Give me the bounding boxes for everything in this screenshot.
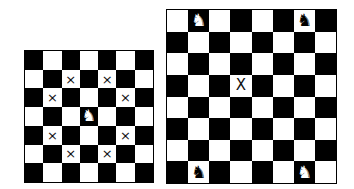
knight-icon: ♞	[191, 12, 206, 29]
board-square	[209, 75, 230, 97]
board-square	[62, 107, 80, 126]
board-square: ×	[62, 145, 80, 164]
x-mark-icon: ×	[102, 147, 113, 160]
board-square	[167, 161, 188, 183]
board-square	[135, 88, 153, 107]
knight-icon: ♞	[297, 12, 312, 29]
board-square: ♞	[294, 10, 315, 32]
board-square	[25, 51, 43, 70]
board-square	[252, 140, 273, 162]
board-square	[209, 140, 230, 162]
board-square	[25, 163, 43, 182]
board-square	[315, 75, 336, 97]
board-square	[230, 97, 251, 119]
board-square	[116, 163, 134, 182]
board-square	[315, 140, 336, 162]
board-square	[43, 145, 61, 164]
board-square: ×	[43, 126, 61, 145]
board-square	[135, 107, 153, 126]
board-square	[209, 53, 230, 75]
board-square: ×	[98, 145, 116, 164]
board-square: ×	[116, 88, 134, 107]
board-square: ×	[116, 126, 134, 145]
x-mark-icon: ×	[47, 129, 58, 142]
board-square	[230, 10, 251, 32]
board-square	[252, 32, 273, 54]
board-square	[98, 107, 116, 126]
board-square	[62, 126, 80, 145]
board-square: ♞	[294, 161, 315, 183]
board-square: ×	[98, 70, 116, 89]
board-square	[188, 140, 209, 162]
board-square	[167, 75, 188, 97]
board-square	[43, 163, 61, 182]
board-square	[62, 163, 80, 182]
board-square	[294, 118, 315, 140]
board-square: ×	[43, 88, 61, 107]
board-square	[294, 75, 315, 97]
board-square	[188, 32, 209, 54]
board-square	[209, 10, 230, 32]
board-square	[98, 126, 116, 145]
board-square	[98, 163, 116, 182]
board-square: ×	[62, 70, 80, 89]
board-square	[252, 75, 273, 97]
board-square	[315, 10, 336, 32]
board-square	[188, 118, 209, 140]
board-square	[167, 10, 188, 32]
board-square	[80, 51, 98, 70]
knight-icon: ♞	[191, 164, 206, 181]
board-square	[116, 51, 134, 70]
board-square	[167, 118, 188, 140]
board-square	[43, 70, 61, 89]
board-square	[188, 53, 209, 75]
board-square	[167, 97, 188, 119]
board-square	[80, 145, 98, 164]
board-square: ♞	[80, 107, 98, 126]
board-square	[135, 163, 153, 182]
board-square	[135, 70, 153, 89]
board-square	[230, 32, 251, 54]
board-square: ♞	[188, 10, 209, 32]
x-mark-icon: X	[236, 78, 246, 93]
board-square	[230, 140, 251, 162]
board-square	[25, 107, 43, 126]
left-chessboard-7x7: ××××♞××××	[24, 50, 154, 183]
board-square	[135, 145, 153, 164]
board-square	[43, 107, 61, 126]
board-square	[80, 88, 98, 107]
board-square	[315, 32, 336, 54]
board-square	[167, 32, 188, 54]
board-square	[209, 161, 230, 183]
board-square	[273, 53, 294, 75]
board-square	[135, 51, 153, 70]
board-square	[294, 53, 315, 75]
knight-icon: ♞	[297, 164, 312, 181]
board-square	[62, 88, 80, 107]
board-square	[98, 88, 116, 107]
board-square	[62, 51, 80, 70]
board-square	[116, 145, 134, 164]
board-square	[209, 32, 230, 54]
board-square	[273, 32, 294, 54]
board-square	[273, 118, 294, 140]
board-square	[25, 88, 43, 107]
board-square	[25, 70, 43, 89]
board-square	[273, 10, 294, 32]
knight-icon: ♞	[82, 108, 96, 124]
board-square	[25, 126, 43, 145]
board-square	[43, 51, 61, 70]
board-square	[188, 97, 209, 119]
board-square	[315, 161, 336, 183]
board-square	[273, 140, 294, 162]
board-square	[252, 161, 273, 183]
board-square: ♞	[188, 161, 209, 183]
x-mark-icon: ×	[120, 91, 131, 104]
x-mark-icon: ×	[65, 147, 76, 160]
board-square	[135, 126, 153, 145]
board-square	[315, 53, 336, 75]
right-chessboard-8x8: ♞♞X♞♞	[166, 9, 337, 184]
board-square	[98, 51, 116, 70]
board-square	[294, 97, 315, 119]
board-square	[273, 97, 294, 119]
